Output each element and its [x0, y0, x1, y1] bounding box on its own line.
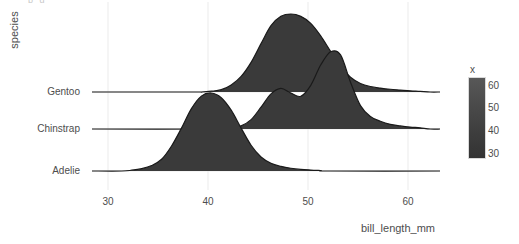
y-tick-gentoo: Gentoo — [0, 87, 86, 97]
y-axis-tick-labels: Gentoo Chinstrap Adelie — [0, 0, 86, 244]
colorbar-legend: x 60 50 40 30 — [466, 64, 512, 164]
y-tick-chinstrap: Chinstrap — [0, 124, 86, 134]
x-tick-60: 60 — [393, 196, 423, 207]
x-tick-30: 30 — [93, 196, 123, 207]
density-area-gentoo — [92, 14, 440, 92]
x-tick-50: 50 — [293, 196, 323, 207]
density-curves-svg — [92, 2, 440, 190]
legend-tick-50: 50 — [488, 103, 499, 113]
legend-title: x — [470, 64, 475, 75]
ridgeline-plot-figure: p g species Gentoo Chinstrap Adelie 30 4… — [0, 0, 519, 244]
ridgeline-curves — [92, 14, 440, 171]
y-tick-adelie: Adelie — [0, 166, 86, 176]
x-axis-title: bill_length_mm — [361, 222, 435, 234]
legend-tick-60: 60 — [488, 81, 499, 91]
legend-gradient-bar — [468, 77, 486, 159]
plot-panel — [92, 2, 440, 190]
legend-tick-30: 30 — [488, 149, 499, 159]
x-tick-40: 40 — [193, 196, 223, 207]
legend-tick-40: 40 — [488, 126, 499, 136]
